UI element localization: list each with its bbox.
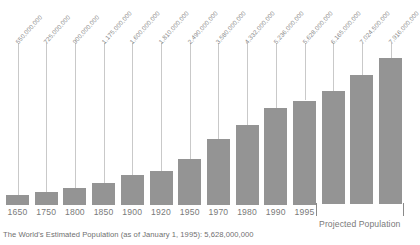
year-label-1920: 1920 — [147, 206, 176, 218]
bar-1650 — [6, 195, 29, 205]
year-label-1900: 1900 — [118, 206, 147, 218]
bar-1900 — [121, 175, 144, 205]
leader-line-1850 — [104, 43, 105, 183]
projected-bracket-mask — [317, 204, 403, 216]
leader-line-1980 — [247, 43, 248, 125]
bar-2000 — [322, 91, 345, 205]
leader-line-2000 — [333, 43, 334, 91]
leader-line-1920 — [161, 43, 162, 171]
leader-line-1750 — [46, 43, 47, 192]
leader-line-2010 — [362, 43, 363, 75]
leader-line-1650 — [18, 43, 19, 195]
year-label-1650: 1650 — [3, 206, 32, 218]
year-label-1980: 1980 — [233, 206, 262, 218]
bar-2010 — [350, 75, 373, 205]
bar-1950 — [178, 159, 201, 205]
plot-area: 550,000,000725,000,000900,000,0001,175,0… — [0, 0, 409, 205]
year-label-1970: 1970 — [204, 206, 233, 218]
value-label-1650: 550,000,000 — [14, 14, 43, 45]
year-label-1950: 1950 — [175, 206, 204, 218]
year-label-1850: 1850 — [89, 206, 118, 218]
value-label-2020: 7,916,000,000 — [387, 10, 420, 45]
bar-1850 — [92, 183, 115, 205]
bar-1920 — [150, 171, 173, 205]
leader-line-1970 — [218, 43, 219, 139]
bar-1970 — [207, 139, 230, 205]
year-label-1990: 1990 — [261, 206, 290, 218]
leader-line-1800 — [75, 43, 76, 188]
bar-1980 — [236, 125, 259, 205]
bar-2020 — [379, 58, 402, 205]
value-label-1800: 900,000,000 — [72, 14, 101, 45]
bar-1990 — [264, 108, 287, 205]
year-label-1995: 1995 — [290, 206, 319, 218]
leader-line-1995 — [305, 43, 306, 100]
chart-caption: The World's Estimated Population (as of … — [3, 230, 254, 240]
leader-line-1950 — [190, 43, 191, 159]
bar-1750 — [35, 192, 58, 205]
projected-population-label: Projected Population — [316, 219, 404, 230]
year-label-1750: 1750 — [32, 206, 61, 218]
bar-1995 — [293, 101, 316, 206]
year-label-1800: 1800 — [60, 206, 89, 218]
leader-line-1990 — [276, 43, 277, 108]
leader-line-1900 — [132, 43, 133, 175]
bar-1800 — [63, 188, 86, 205]
value-label-1750: 725,000,000 — [43, 14, 72, 45]
